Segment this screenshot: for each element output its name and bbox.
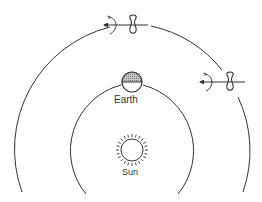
earth-label: Earth bbox=[114, 94, 138, 105]
satellite-top-icon bbox=[104, 15, 148, 34]
satellite-right-icon bbox=[200, 72, 245, 91]
sun-label: Sun bbox=[122, 167, 138, 177]
earth-icon bbox=[122, 72, 142, 92]
sun-icon bbox=[116, 134, 148, 166]
